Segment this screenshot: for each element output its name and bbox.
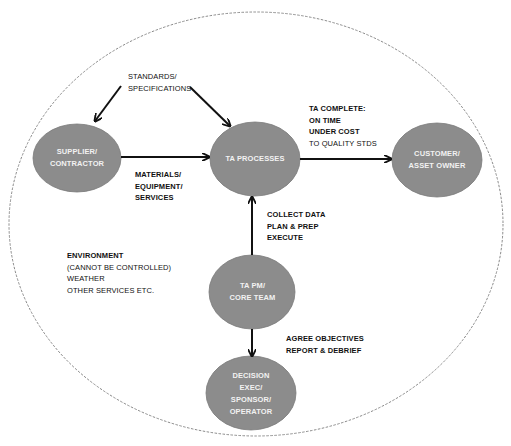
node-supplier: SUPPLIER/ CONTRACTOR [33, 124, 121, 192]
node-decision-line-3: SPONSOR/ [231, 394, 271, 406]
annotation-agree-line-2: REPORT & DEBRIEF [286, 345, 364, 357]
arrow-standards-to-supplier [95, 86, 121, 121]
annotation-environment: ENVIRONMENT (CANNOT BE CONTROLLED) WEATH… [67, 250, 171, 297]
annotation-materials-line-2: EQUIPMENT/ [135, 181, 183, 193]
annotation-environment-line-4: OTHER SERVICES ETC. [67, 285, 171, 297]
node-supplier-line-1: SUPPLIER/ [57, 146, 98, 158]
node-customer: CUSTOMER/ ASSET OWNER [392, 123, 482, 197]
node-customer-line-2: ASSET OWNER [409, 160, 466, 172]
annotation-agree-line-1: AGREE OBJECTIVES [286, 333, 364, 345]
annotation-standards-line-1: STANDARDS/ [128, 71, 191, 83]
node-customer-line-1: CUSTOMER/ [414, 148, 460, 160]
node-decision: DECISION EXEC/ SPONSOR/ OPERATOR [206, 357, 296, 431]
diagram-canvas: SUPPLIER/ CONTRACTOR TA PROCESSES CUSTOM… [0, 0, 511, 446]
annotation-environment-line-2: (CANNOT BE CONTROLLED) [67, 262, 171, 274]
annotation-ta-complete: TA COMPLETE: ON TIME UNDER COST TO QUALI… [309, 103, 377, 150]
node-core-team-line-2: CORE TEAM [230, 292, 276, 304]
annotation-environment-line-3: WEATHER [67, 273, 171, 285]
node-core-team: TA PM/ CORE TEAM [209, 255, 296, 329]
node-processes: TA PROCESSES [210, 122, 300, 196]
node-decision-line-1: DECISION [232, 370, 269, 382]
annotation-collect: COLLECT DATA PLAN & PREP EXECUTE [267, 209, 325, 244]
node-decision-line-4: OPERATOR [230, 406, 273, 418]
annotation-standards: STANDARDS/ SPECIFICATIONS [128, 71, 191, 94]
annotation-collect-line-2: PLAN & PREP [267, 221, 325, 233]
annotation-collect-line-3: EXECUTE [267, 232, 325, 244]
node-supplier-line-2: CONTRACTOR [50, 158, 104, 170]
annotation-ta-complete-line-2: ON TIME [309, 115, 377, 127]
annotation-materials-line-1: MATERIALS/ [135, 169, 183, 181]
node-decision-line-2: EXEC/ [239, 382, 262, 394]
node-core-team-line-1: TA PM/ [240, 280, 265, 292]
annotation-materials-line-3: SERVICES [135, 192, 183, 204]
annotation-ta-complete-line-4: TO QUALITY STDS [309, 138, 377, 150]
annotation-ta-complete-line-3: UNDER COST [309, 126, 377, 138]
annotation-materials: MATERIALS/ EQUIPMENT/ SERVICES [135, 169, 183, 204]
annotation-collect-line-1: COLLECT DATA [267, 209, 325, 221]
annotation-agree: AGREE OBJECTIVES REPORT & DEBRIEF [286, 333, 364, 356]
annotation-ta-complete-line-1: TA COMPLETE: [309, 103, 377, 115]
annotation-environment-line-1: ENVIRONMENT [67, 250, 171, 262]
annotation-standards-line-2: SPECIFICATIONS [128, 83, 191, 95]
arrow-standards-to-processes [190, 87, 230, 126]
node-processes-line-1: TA PROCESSES [225, 153, 284, 165]
